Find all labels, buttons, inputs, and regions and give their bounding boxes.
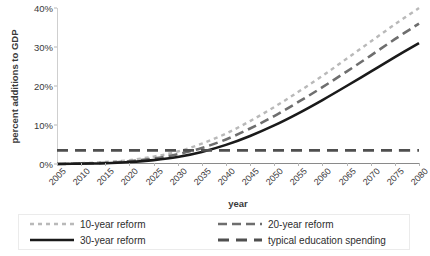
x-tick-label: 2080	[409, 166, 430, 187]
x-tick-label: 2015	[95, 166, 116, 187]
x-tick-label: 2075	[385, 166, 406, 187]
x-tick-mark	[226, 163, 227, 166]
x-tick-mark	[419, 163, 420, 166]
x-tick-label: 2070	[361, 166, 382, 187]
legend-entry[interactable]: 10-year reform	[29, 219, 217, 230]
y-tick-label: 40%	[13, 3, 53, 14]
x-tick-mark	[129, 163, 130, 166]
x-tick-label: 2050	[264, 166, 285, 187]
x-tick-mark	[371, 163, 372, 166]
series-lines	[57, 8, 419, 164]
x-tick-mark	[347, 163, 348, 166]
chart-legend: 10-year reform20-year reform30-year refo…	[18, 214, 410, 250]
x-tick-label: 2065	[336, 166, 357, 187]
x-tick-label: 2020	[119, 166, 140, 187]
x-tick-label: 2025	[143, 166, 164, 187]
x-tick-mark	[250, 163, 251, 166]
legend-swatch	[29, 235, 75, 245]
legend-label: 10-year reform	[80, 219, 146, 230]
x-tick-label: 2040	[216, 166, 237, 187]
x-tick-mark	[154, 163, 155, 166]
x-tick-mark	[298, 163, 299, 166]
x-tick-mark	[178, 163, 179, 166]
x-tick-mark	[81, 163, 82, 166]
legend-swatch	[29, 219, 75, 229]
y-tick-label: 10%	[13, 120, 53, 131]
legend-label: 30-year reform	[80, 235, 146, 246]
plot-area: 0%10%20%30%40%	[57, 8, 419, 164]
x-tick-label: 2030	[167, 166, 188, 187]
y-tick-label: 20%	[13, 81, 53, 92]
legend-label: 20-year reform	[268, 219, 334, 230]
x-tick-label: 2055	[288, 166, 309, 187]
series-line	[57, 43, 419, 164]
x-tick-mark	[105, 163, 106, 166]
x-tick-label: 2060	[312, 166, 333, 187]
y-tick-label: 0%	[13, 159, 53, 170]
x-tick-label: 2010	[71, 166, 92, 187]
legend-label: typical education spending	[268, 235, 386, 246]
legend-entry[interactable]: 20-year reform	[217, 219, 405, 230]
x-tick-mark	[395, 163, 396, 166]
legend-entry[interactable]: typical education spending	[217, 235, 405, 246]
legend-swatch	[217, 235, 263, 245]
y-tick-label: 30%	[13, 42, 53, 53]
legend-entry[interactable]: 30-year reform	[29, 235, 217, 246]
x-tick-mark	[274, 163, 275, 166]
x-tick-label: 2045	[240, 166, 261, 187]
x-tick-mark	[322, 163, 323, 166]
x-axis-title: year	[57, 198, 419, 209]
x-tick-label: 2035	[192, 166, 213, 187]
legend-swatch	[217, 219, 263, 229]
x-tick-mark	[202, 163, 203, 166]
x-tick-mark	[57, 163, 58, 166]
